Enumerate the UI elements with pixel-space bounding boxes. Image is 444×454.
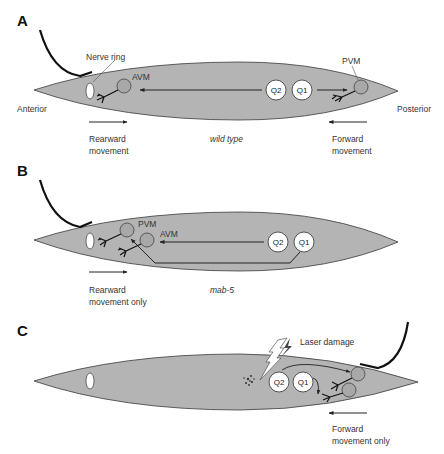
panel-c: C Laser damage Q2 Q1 Forward movement: [17, 322, 418, 446]
left-caption-line2: movement: [89, 146, 129, 156]
right-caption-line2: movement: [332, 146, 372, 156]
right-caption-line1: Forward: [332, 134, 363, 144]
nerve-ring-label: Nerve ring: [86, 52, 125, 62]
left-caption-line2: movement only: [89, 297, 147, 307]
pvm-neuron: [354, 80, 368, 94]
panel-a-label: A: [17, 12, 28, 29]
diagram-canvas: A Nerve ring AVM Q2 Q1 PVM Anterior Post…: [0, 0, 444, 454]
q2-label: Q2: [271, 86, 282, 95]
q1-label: Q1: [298, 378, 309, 387]
anterior-label: Anterior: [17, 104, 47, 114]
neuron-lower: [342, 383, 356, 397]
pvm-label: PVM: [138, 219, 156, 229]
q1-label: Q1: [297, 86, 308, 95]
genotype-label: wild type: [210, 134, 243, 144]
avm-label: AVM: [160, 229, 178, 239]
tether-line: [360, 322, 408, 368]
laser-damage-label: Laser damage: [300, 337, 355, 347]
tether-line: [40, 30, 92, 76]
q2-label: Q2: [273, 238, 284, 247]
tether-line: [40, 180, 92, 227]
q2-label: Q2: [274, 378, 285, 387]
panel-c-label: C: [17, 322, 28, 339]
nerve-ring: [86, 373, 94, 389]
nerve-ring: [86, 233, 94, 249]
avm-neuron: [140, 233, 154, 247]
right-caption-line2: movement only: [332, 436, 390, 446]
panel-a: A Nerve ring AVM Q2 Q1 PVM Anterior Post…: [17, 12, 431, 156]
panel-b-label: B: [17, 162, 28, 179]
neuron-upper: [351, 367, 365, 381]
right-caption-line1: Forward: [332, 424, 363, 434]
avm-neuron: [117, 79, 131, 93]
posterior-label: Posterior: [397, 104, 431, 114]
pvm-neuron: [120, 223, 134, 237]
panel-b: B PVM AVM Q2 Q1 Rearward movement only m…: [17, 162, 398, 307]
left-caption-line1: Rearward: [89, 285, 126, 295]
left-caption-line1: Rearward: [89, 134, 126, 144]
nerve-ring: [86, 83, 94, 99]
genotype-label: mab-5: [210, 285, 234, 295]
pvm-label: PVM: [342, 56, 360, 66]
avm-label: AVM: [132, 72, 150, 82]
q1-label: Q1: [299, 238, 310, 247]
